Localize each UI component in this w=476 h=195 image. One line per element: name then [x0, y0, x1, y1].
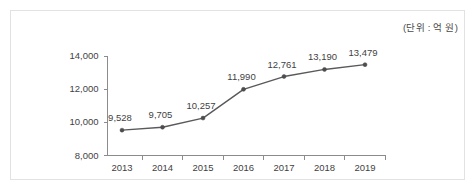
data-point-marker: [363, 63, 367, 67]
data-point-label: 9,705: [149, 109, 173, 120]
y-tick-label: 12,000: [69, 83, 98, 94]
data-point-label: 13,479: [348, 47, 377, 58]
data-point-marker: [201, 116, 205, 120]
x-tick-label: 2018: [314, 162, 335, 173]
x-tick-label: 2017: [273, 162, 294, 173]
x-tick-label: 2015: [192, 162, 213, 173]
x-axis-group: 2013201420152016201720182019: [108, 156, 387, 173]
data-point-marker: [282, 75, 286, 79]
data-label-group: 9,5289,70510,25711,99012,76113,19013,479: [108, 47, 377, 124]
x-tick-label: 2013: [111, 162, 132, 173]
data-point-marker: [120, 128, 124, 132]
data-point-label: 13,190: [308, 51, 337, 62]
data-point-label: 11,990: [227, 71, 255, 82]
y-tick-label: 10,000: [69, 116, 98, 127]
x-tick-label: 2016: [233, 162, 254, 173]
data-point-marker: [161, 125, 165, 129]
y-tick-label: 14,000: [69, 50, 98, 61]
y-tick-label: 8,000: [75, 150, 99, 161]
y-axis-group: 8,00010,00012,00014,000: [69, 50, 107, 161]
line-chart-plot: 8,00010,00012,00014,000 2013201420152016…: [0, 0, 476, 195]
data-point-label: 10,257: [186, 100, 215, 111]
data-point-marker: [323, 67, 327, 71]
data-point-label: 9,528: [108, 112, 132, 123]
y-tick-group: 8,00010,00012,00014,000: [69, 50, 107, 161]
x-tick-label: 2014: [152, 162, 173, 173]
chart-figure: (단위 : 억 원) 8,00010,00012,00014,000 20132…: [0, 0, 476, 195]
data-point-label: 12,761: [267, 59, 296, 70]
data-point-marker: [242, 87, 246, 91]
x-tick-group: 2013201420152016201720182019: [111, 156, 385, 173]
x-tick-label: 2019: [354, 162, 375, 173]
